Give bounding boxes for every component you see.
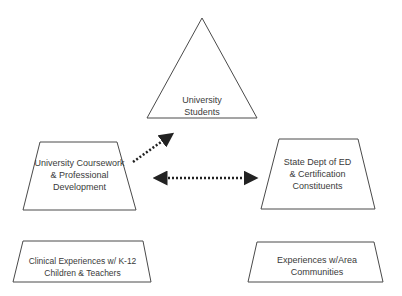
state-label-line: Constituents xyxy=(265,180,370,192)
students-label-line: Students xyxy=(152,106,252,118)
diagram-canvas: University Students University Coursewor… xyxy=(0,0,402,296)
arrow-coursework-to-students xyxy=(133,137,168,162)
coursework-label: University Coursework & Professional Dev… xyxy=(22,157,137,193)
community-label: Experiences w/Area Communities xyxy=(262,254,372,278)
community-label-line: Experiences w/Area xyxy=(262,254,372,266)
clinical-label-line: Clinical Experiences w/ K-12 xyxy=(20,255,145,267)
state-label-line: State Dept of ED xyxy=(265,156,370,168)
coursework-label-line: University Coursework xyxy=(22,157,137,169)
state-label: State Dept of ED & Certification Constit… xyxy=(265,156,370,192)
clinical-label: Clinical Experiences w/ K-12 Children & … xyxy=(20,255,145,279)
coursework-label-line: Development xyxy=(22,181,137,193)
diagram-shapes xyxy=(0,0,402,296)
clinical-label-line: Children & Teachers xyxy=(20,267,145,279)
coursework-label-line: & Professional xyxy=(22,169,137,181)
community-label-line: Communities xyxy=(262,266,372,278)
state-label-line: & Certification xyxy=(265,168,370,180)
students-label: University Students xyxy=(152,94,252,118)
students-label-line: University xyxy=(152,94,252,106)
